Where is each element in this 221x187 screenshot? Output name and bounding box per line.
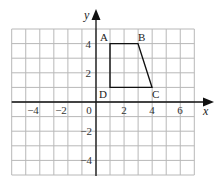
y-axis-arrow-icon xyxy=(92,9,101,20)
y-tick-label: 2 xyxy=(86,67,92,79)
x-tick-label: −2 xyxy=(55,104,67,116)
vertex-label-d: D xyxy=(99,88,107,100)
vertex-label-c: C xyxy=(152,88,159,100)
x-tick-label: 4 xyxy=(149,104,155,116)
x-axis-label: x xyxy=(202,104,209,118)
y-tick-label: −4 xyxy=(80,154,92,166)
y-tick-label: −2 xyxy=(80,125,92,137)
axes xyxy=(12,17,206,176)
x-tick-label: 2 xyxy=(121,104,127,116)
y-tick-label: 4 xyxy=(86,38,92,50)
vertex-label-a: A xyxy=(100,31,108,43)
trapezium-abcd xyxy=(110,44,152,88)
origin-label: 0 xyxy=(86,104,92,116)
x-tick-label: 6 xyxy=(177,104,183,116)
x-tick-label: −4 xyxy=(27,104,39,116)
y-axis-label: y xyxy=(83,8,90,22)
vertex-label-b: B xyxy=(138,31,145,43)
coordinate-grid-diagram: y x −4 −2 0 2 4 6 4 2 −2 −4 A B C D xyxy=(0,0,221,187)
